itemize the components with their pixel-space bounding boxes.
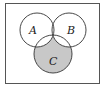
label-b: B bbox=[66, 24, 75, 37]
label-a: A bbox=[28, 24, 37, 37]
label-c: C bbox=[49, 55, 58, 68]
venn-diagram: A B C bbox=[0, 0, 102, 90]
